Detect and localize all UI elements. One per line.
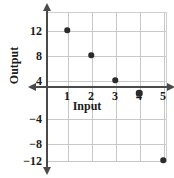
data-point (88, 52, 94, 58)
data-point (64, 27, 70, 33)
x-tick-label-5: 5 (156, 90, 170, 102)
x-axis-title: Input (55, 99, 119, 114)
scatter-plot-figure: 12 8 4 −4 −8 −12 1 2 3 4 5 Output Input (0, 0, 174, 178)
data-point (112, 77, 118, 83)
data-point (136, 90, 143, 97)
x-tick-label-group: 1 2 3 4 5 (0, 0, 174, 178)
y-axis-title: Output (7, 36, 22, 96)
data-point (160, 157, 166, 163)
